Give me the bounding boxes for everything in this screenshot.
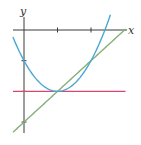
- chart: x y: [0, 0, 141, 145]
- y-axis-label: y: [19, 5, 27, 18]
- x-axis-label: x: [128, 24, 135, 37]
- line-curve: [13, 29, 126, 132]
- curves: [13, 15, 126, 132]
- parabola-curve: [13, 15, 110, 92]
